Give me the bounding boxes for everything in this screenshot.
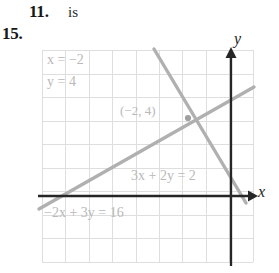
annotation-solution-y: y = 4 [47, 74, 76, 90]
annotation-equation-1: 3x + 2y = 2 [131, 168, 196, 184]
y-axis [226, 47, 237, 266]
x-axis-label: x [258, 183, 265, 201]
annotation-intersection-point: (−2, 4) [120, 103, 156, 119]
coordinate-graph-figure: x = −2 y = 4 (−2, 4) 3x + 2y = 2 −2x + 3… [0, 0, 279, 273]
y-axis-label: y [234, 30, 241, 48]
annotation-solution-x: x = −2 [47, 52, 84, 68]
intersection-point-marker [185, 115, 191, 121]
textbook-page-fragment: 11. is 15. [0, 0, 279, 273]
annotation-equation-2: −2x + 3y = 16 [44, 205, 124, 221]
